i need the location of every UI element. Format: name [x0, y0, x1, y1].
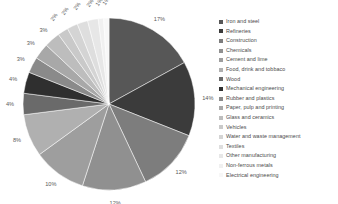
legend-swatch-icon [219, 135, 223, 139]
legend-item-label: Wood [226, 75, 240, 85]
legend-swatch-icon [219, 68, 223, 72]
legend-item[interactable]: Glass and ceramics [219, 113, 338, 123]
legend-swatch-icon [219, 116, 223, 120]
legend-swatch-icon [219, 29, 223, 33]
pie-chart-figure: 17%14%12%12%10%8%4%4%3%3%3%2%2%2%2%1%1% … [0, 0, 338, 204]
legend-item[interactable]: Cement and lime [219, 55, 338, 65]
pie-slice-percentage: 12% [110, 200, 121, 204]
legend-item-label: Rubber and plastics [226, 94, 275, 104]
legend-swatch-icon [219, 106, 223, 110]
pie-slice-percentage: 14% [202, 95, 213, 101]
legend-swatch-icon [219, 154, 223, 158]
legend-swatch-icon [219, 77, 223, 81]
legend-item-label: Construction [226, 36, 257, 46]
legend-item[interactable]: Iron and steel [219, 17, 338, 27]
legend-item[interactable]: Vehicles [219, 123, 338, 133]
legend-item-label: Refineries [226, 27, 251, 37]
pie-slice-percentage: 12% [176, 169, 187, 175]
pie-slice-percentage: 4% [6, 101, 14, 107]
legend-swatch-icon [219, 20, 223, 24]
legend-item-label: Mechanical engineering [226, 84, 284, 94]
legend-item[interactable]: Water and waste management [219, 132, 338, 142]
legend-item[interactable]: Refineries [219, 27, 338, 37]
pie-slice-group [23, 18, 195, 190]
legend-swatch-icon [219, 49, 223, 53]
legend-swatch-icon [219, 87, 223, 91]
pie-slice-percentage: 4% [9, 76, 17, 82]
legend-swatch-icon [219, 164, 223, 168]
legend-swatch-icon [219, 125, 223, 129]
legend-swatch-icon [219, 39, 223, 43]
pie-slice-percentage: 3% [17, 56, 25, 62]
pie-slice-percentage: 8% [13, 137, 21, 143]
legend-item-label: Glass and ceramics [226, 113, 274, 123]
pie-plot-area: 17%14%12%12%10%8%4%4%3%3%3%2%2%2%2%1%1% [0, 0, 218, 204]
legend-item[interactable]: Electrical engineering [219, 171, 338, 181]
legend-item-label: Food, drink and tobbaco [226, 65, 285, 75]
legend-swatch-icon [219, 58, 223, 62]
legend-swatch-icon [219, 173, 223, 177]
legend-item-label: Chemicals [226, 46, 252, 56]
legend-item[interactable]: Chemicals [219, 46, 338, 56]
legend-item[interactable]: Other manufacturing [219, 151, 338, 161]
legend-item-label: Water and waste management [226, 132, 301, 142]
legend-item[interactable]: Textiles [219, 142, 338, 152]
legend-item[interactable]: Food, drink and tobbaco [219, 65, 338, 75]
legend-item-label: Paper, pulp and printing [226, 103, 284, 113]
pie-slice-percentage: 17% [154, 16, 165, 22]
legend-swatch-icon [219, 97, 223, 101]
legend-item-label: Textiles [226, 142, 244, 152]
legend-item-label: Non-ferrous metals [226, 161, 273, 171]
legend-item-label: Iron and steel [226, 17, 259, 27]
legend-item[interactable]: Mechanical engineering [219, 84, 338, 94]
legend-item-label: Cement and lime [226, 55, 268, 65]
legend-item[interactable]: Rubber and plastics [219, 94, 338, 104]
legend-item[interactable]: Paper, pulp and printing [219, 103, 338, 113]
legend-item[interactable]: Construction [219, 36, 338, 46]
pie-slice-percentage: 3% [39, 27, 47, 33]
legend-swatch-icon [219, 145, 223, 149]
legend-item-label: Other manufacturing [226, 151, 276, 161]
legend-item[interactable]: Non-ferrous metals [219, 161, 338, 171]
legend-item-label: Electrical engineering [226, 171, 279, 181]
legend-item-label: Vehicles [226, 123, 246, 133]
legend-item[interactable]: Wood [219, 75, 338, 85]
pie-slice-percentage: 10% [45, 181, 56, 187]
chart-legend: Iron and steelRefineriesConstructionChem… [219, 17, 338, 197]
pie-slice-percentage: 3% [27, 40, 35, 46]
